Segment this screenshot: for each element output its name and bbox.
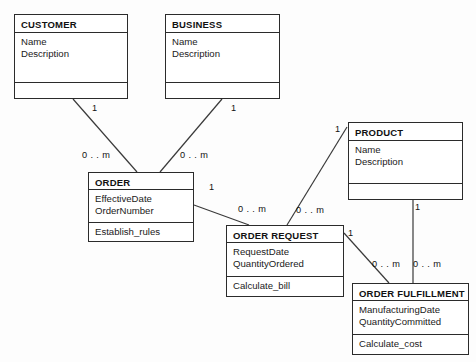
attribute-row: Description (355, 156, 456, 168)
attribute-row: OrderNumber (95, 205, 187, 217)
multiplicity-label-customer-end: 1 (92, 103, 97, 113)
class-name-order: ORDER (89, 173, 193, 190)
association-line-order_request-order_fulfillment (344, 233, 389, 283)
class-name-order_request: ORDER REQUEST (227, 226, 343, 243)
attribute-row: ManufacturingDate (359, 304, 462, 316)
multiplicity-label-request-from-product: 0 . . m (296, 205, 324, 215)
class-attributes-order: EffectiveDateOrderNumber (89, 190, 193, 223)
class-operations-product (349, 184, 462, 199)
multiplicity-label-request-from-order: 0 . . m (238, 204, 266, 214)
attribute-row: Name (355, 144, 456, 156)
class-attributes-order_fulfillment: ManufacturingDateQuantityCommitted (353, 301, 468, 335)
attribute-row: Description (21, 48, 121, 60)
class-operations-order_fulfillment: Calculate_cost (353, 335, 468, 354)
class-name-business: BUSINESS (166, 15, 279, 33)
association-line-customer-order (73, 99, 137, 172)
multiplicity-label-order-to-request: 1 (209, 182, 214, 192)
multiplicity-label-order-from-customer: 0 . . m (82, 150, 110, 160)
uml-class-product[interactable]: PRODUCTNameDescription (348, 122, 463, 200)
class-operations-business (166, 83, 279, 98)
operation-row: Calculate_cost (359, 338, 462, 350)
class-operations-order: Establish_rules (89, 223, 193, 241)
uml-class-order_request[interactable]: ORDER REQUESTRequestDateQuantityOrderedC… (226, 225, 344, 297)
multiplicity-label-product-to-request: 1 (335, 124, 340, 134)
uml-class-order[interactable]: ORDEREffectiveDateOrderNumberEstablish_r… (88, 172, 194, 242)
class-attributes-customer: NameDescription (15, 33, 127, 83)
multiplicity-label-order-from-business: 0 . . m (180, 150, 208, 160)
uml-class-diagram: CUSTOMERNameDescriptionBUSINESSNameDescr… (0, 0, 476, 362)
class-attributes-product: NameDescription (349, 141, 462, 184)
class-name-product: PRODUCT (349, 123, 462, 141)
attribute-row: Name (172, 36, 273, 48)
operation-row: Establish_rules (95, 226, 187, 238)
uml-class-order_fulfillment[interactable]: ORDER FULFILLMENTManufacturingDateQuanti… (352, 283, 469, 355)
association-line-business-order (160, 99, 222, 172)
class-attributes-business: NameDescription (166, 33, 279, 83)
multiplicity-label-request-to-fulfill: 1 (348, 228, 353, 238)
attribute-row: QuantityOrdered (233, 258, 337, 270)
operation-row: Calculate_bill (233, 280, 337, 292)
attribute-row: QuantityCommitted (359, 316, 462, 328)
multiplicity-label-business-end: 1 (231, 103, 236, 113)
class-operations-order_request: Calculate_bill (227, 277, 343, 296)
multiplicity-label-product-to-fulfill: 1 (415, 202, 420, 212)
class-operations-customer (15, 83, 127, 98)
attribute-row: EffectiveDate (95, 193, 187, 205)
attribute-row: Name (21, 36, 121, 48)
class-name-customer: CUSTOMER (15, 15, 127, 33)
attribute-row: Description (172, 48, 273, 60)
attribute-row: RequestDate (233, 246, 337, 258)
multiplicity-label-fulfill-from-request: 0 . . m (372, 259, 400, 269)
class-name-order_fulfillment: ORDER FULFILLMENT (353, 284, 468, 301)
uml-class-business[interactable]: BUSINESSNameDescription (165, 14, 280, 99)
class-attributes-order_request: RequestDateQuantityOrdered (227, 243, 343, 277)
multiplicity-label-fulfill-from-product: 0 . . m (413, 259, 441, 269)
uml-class-customer[interactable]: CUSTOMERNameDescription (14, 14, 128, 99)
